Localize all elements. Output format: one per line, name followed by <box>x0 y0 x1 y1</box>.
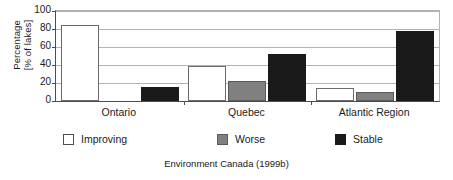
y-axis-tick <box>52 101 56 102</box>
bar-atlantic-region-improving <box>316 88 354 101</box>
x-axis-label-atlantic-region: Atlantic Region <box>310 106 438 119</box>
bar-quebec-stable <box>268 54 306 101</box>
y-axis-title-line1: Percentage <box>11 20 22 70</box>
bar-atlantic-region-stable <box>396 31 434 101</box>
y-axis-tick-label: 40 <box>26 59 51 69</box>
x-axis-tick <box>184 101 185 105</box>
y-axis-tick-labels: 020406080100 <box>26 10 51 102</box>
bar-ontario-improving <box>61 25 99 102</box>
y-axis-tick-label: 100 <box>26 5 51 15</box>
bar-ontario-stable <box>141 87 179 101</box>
bar-group <box>311 11 439 101</box>
x-axis-tick <box>311 101 312 105</box>
legend-swatch-worse-icon <box>217 134 228 145</box>
bar-quebec-improving <box>188 66 226 101</box>
chart-legend: ImprovingWorseStable <box>55 132 440 148</box>
bar-chart-figure: Percentage [% of lakes] 020406080100 Ont… <box>0 0 453 180</box>
y-axis-tick-label: 60 <box>26 41 51 51</box>
bar-quebec-worse <box>228 81 266 101</box>
legend-swatch-improving-icon <box>63 134 74 145</box>
legend-label: Improving <box>81 133 127 145</box>
x-axis-label-ontario: Ontario <box>55 106 183 119</box>
y-axis-tick-label: 0 <box>26 95 51 105</box>
plot-area <box>55 10 440 102</box>
x-axis-label-quebec: Quebec <box>183 106 311 119</box>
legend-label: Worse <box>235 133 265 145</box>
y-axis-tick-label: 20 <box>26 77 51 87</box>
y-axis-tick-label: 80 <box>26 23 51 33</box>
legend-swatch-stable-icon <box>335 134 346 145</box>
bar-group <box>184 11 312 101</box>
legend-entry-improving[interactable]: Improving <box>63 132 127 146</box>
legend-entry-worse[interactable]: Worse <box>217 132 265 146</box>
bar-atlantic-region-worse <box>356 92 394 101</box>
bar-group <box>56 11 184 101</box>
legend-label: Stable <box>353 133 383 145</box>
legend-entry-stable[interactable]: Stable <box>335 132 383 146</box>
chart-caption: Environment Canada (1999b) <box>0 158 453 170</box>
x-axis-tick-labels: OntarioQuebecAtlantic Region <box>55 106 440 122</box>
